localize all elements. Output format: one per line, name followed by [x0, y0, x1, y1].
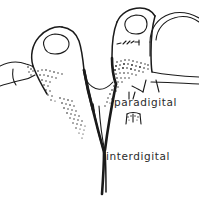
left-fingernail — [44, 34, 69, 54]
right-finger-group — [112, 8, 155, 84]
label-paradigital: paradigital — [114, 96, 177, 108]
adjacent-finger-top-right-group — [150, 13, 199, 56]
right-fingernail — [125, 15, 147, 34]
left-edge-web-shading — [27, 66, 34, 76]
figure-canvas: paradigital interdigital — [0, 0, 199, 198]
right-finger-crease — [117, 40, 139, 45]
palm-creases — [132, 72, 199, 92]
interdigital-cleft — [84, 70, 116, 152]
left-finger-group — [32, 27, 93, 110]
anatomical-figure: paradigital interdigital — [0, 0, 199, 198]
partial-finger-left-group — [0, 62, 35, 86]
lower-web-detail — [126, 113, 141, 125]
left-web-shading — [37, 69, 85, 138]
label-interdigital: interdigital — [106, 150, 170, 162]
